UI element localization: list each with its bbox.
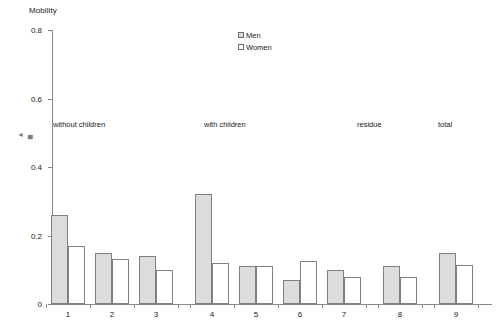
- x-tick-12: [322, 304, 323, 308]
- bar-men-7: [327, 270, 344, 304]
- y-tick-0: [48, 304, 53, 305]
- y-tick-label-0: 0: [2, 300, 42, 309]
- bar-men-2: [95, 253, 112, 304]
- x-tick-16: [434, 304, 435, 308]
- x-tick-label-7: 7: [329, 310, 359, 319]
- x-tick-label-9: 9: [441, 310, 471, 319]
- x-tick-5: [178, 304, 179, 308]
- y-tick-label-4: 0.8: [2, 26, 42, 35]
- bar-women-8: [400, 277, 417, 304]
- bar-women-7: [344, 277, 361, 304]
- bar-men-5: [239, 266, 256, 304]
- x-tick-label-1: 1: [53, 310, 83, 319]
- x-tick-6: [190, 304, 191, 308]
- bar-men-9: [439, 253, 456, 304]
- legend-swatch-women-icon: [238, 44, 244, 50]
- x-tick-13: [366, 304, 367, 308]
- x-axis-line: [52, 304, 492, 305]
- legend-item-men: Men: [238, 30, 272, 40]
- group-label-with-children: with children: [204, 120, 246, 129]
- x-tick-label-6: 6: [285, 310, 315, 319]
- bar-women-6: [300, 261, 317, 304]
- bar-men-6: [283, 280, 300, 304]
- x-tick-2: [90, 304, 91, 308]
- x-tick-8: [234, 304, 235, 308]
- legend-item-women: Women: [238, 42, 272, 52]
- bar-men-3: [139, 256, 156, 304]
- bar-women-9: [456, 265, 473, 304]
- x-tick-label-5: 5: [241, 310, 271, 319]
- y-tick-label-1: 0.2: [2, 231, 42, 240]
- x-tick-label-4: 4: [197, 310, 227, 319]
- x-tick-label-3: 3: [141, 310, 171, 319]
- legend-label-women: Women: [246, 43, 272, 52]
- bar-men-8: [383, 266, 400, 304]
- y-tick-label-3: 0.6: [2, 94, 42, 103]
- x-tick-label-2: 2: [97, 310, 127, 319]
- y-axis-title: Mobility: [29, 6, 57, 15]
- x-tick-4: [134, 304, 135, 308]
- group-label-without-children: without children: [53, 120, 105, 129]
- bar-women-5: [256, 266, 273, 304]
- x-tick-14: [378, 304, 379, 308]
- legend-swatch-men-icon: [238, 32, 244, 38]
- x-tick-0: [46, 304, 47, 308]
- scan-artifact-mark: ◄ ▄: [17, 131, 34, 138]
- y-tick-2: [48, 167, 53, 168]
- legend: Men Women: [238, 30, 272, 54]
- x-tick-10: [278, 304, 279, 308]
- bar-women-1: [68, 246, 85, 304]
- x-tick-15: [422, 304, 423, 308]
- y-tick-3: [48, 99, 53, 100]
- bar-women-2: [112, 259, 129, 304]
- group-label-residue: residue: [357, 120, 382, 129]
- bar-women-4: [212, 263, 229, 304]
- x-tick-label-8: 8: [385, 310, 415, 319]
- bar-women-3: [156, 270, 173, 304]
- legend-label-men: Men: [246, 31, 261, 40]
- y-tick-4: [48, 30, 53, 31]
- y-tick-label-2: 0.4: [2, 163, 42, 172]
- x-tick-17: [478, 304, 479, 308]
- bar-men-4: [195, 194, 212, 304]
- bar-men-1: [51, 215, 68, 304]
- mobility-bar-chart: Mobility 00.20.40.60.8 123456789 without…: [0, 0, 499, 322]
- group-label-total: total: [438, 120, 452, 129]
